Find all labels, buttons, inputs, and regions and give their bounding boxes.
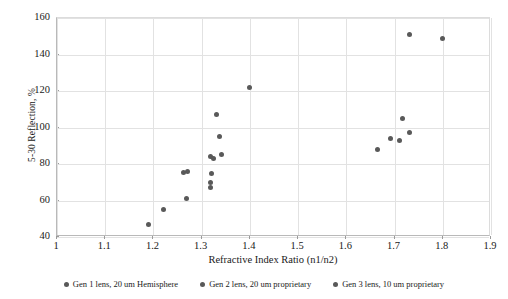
- legend-marker-icon: [333, 282, 338, 287]
- data-point: [400, 116, 405, 121]
- data-point: [440, 36, 445, 41]
- gridline-horizontal: [57, 164, 489, 165]
- legend-item[interactable]: Gen 3 lens, 10 um proprietary: [333, 279, 444, 289]
- gridline-horizontal: [57, 91, 489, 92]
- data-point: [184, 196, 189, 201]
- data-point: [407, 130, 412, 135]
- data-point: [211, 156, 216, 161]
- legend-item[interactable]: Gen 2 lens, 20 um proprietary: [200, 279, 311, 289]
- y-axis-tick-label: 100: [10, 122, 50, 132]
- x-axis-tick-mark: [201, 236, 202, 239]
- data-point: [146, 222, 151, 227]
- gridline-vertical: [298, 18, 299, 235]
- legend-label: Gen 3 lens, 10 um proprietary: [342, 279, 444, 289]
- x-axis-tick-mark: [345, 236, 346, 239]
- x-axis-tick-mark: [152, 236, 153, 239]
- data-point: [375, 147, 380, 152]
- gridline-vertical: [443, 18, 444, 235]
- y-axis-tick-label: 120: [10, 85, 50, 95]
- x-axis-tick-label: 1.9: [470, 240, 508, 251]
- data-point: [217, 134, 222, 139]
- gridline-vertical: [346, 18, 347, 235]
- data-point: [161, 207, 166, 212]
- legend-marker-icon: [200, 282, 205, 287]
- x-axis-tick-label: 1.8: [422, 240, 462, 251]
- gridline-horizontal: [57, 201, 489, 202]
- y-axis-tick-label: 80: [10, 158, 50, 168]
- data-point: [214, 112, 219, 117]
- legend-label: Gen 2 lens, 20 um proprietary: [209, 279, 311, 289]
- x-axis-tick-label: 1.2: [132, 240, 172, 251]
- gridline-horizontal: [57, 55, 489, 56]
- gridline-vertical: [57, 18, 58, 235]
- x-axis-tick-mark: [56, 236, 57, 239]
- data-point: [209, 171, 214, 176]
- legend-marker-icon: [64, 282, 69, 287]
- data-point: [208, 180, 213, 185]
- x-axis-tick-label: 1.6: [325, 240, 365, 251]
- data-point: [219, 152, 224, 157]
- gridline-horizontal: [57, 18, 489, 19]
- x-axis-tick-label: 1.1: [84, 240, 124, 251]
- x-axis-tick-label: 1.5: [277, 240, 317, 251]
- x-axis-tick-mark: [442, 236, 443, 239]
- y-axis-tick-label: 140: [10, 49, 50, 59]
- x-axis-tick-label: 1: [36, 240, 76, 251]
- data-point: [388, 136, 393, 141]
- gridline-vertical: [153, 18, 154, 235]
- plot-area: [56, 17, 490, 236]
- gridline-horizontal: [57, 128, 489, 129]
- x-axis-tick-label: 1.7: [374, 240, 414, 251]
- data-point: [247, 85, 252, 90]
- legend-label: Gen 1 lens, 20 um Hemisphere: [73, 279, 178, 289]
- x-axis-tick-mark: [104, 236, 105, 239]
- x-axis-tick-mark: [490, 236, 491, 239]
- gridline-vertical: [491, 18, 492, 235]
- data-point: [397, 138, 402, 143]
- x-axis-tick-label: 1.3: [181, 240, 221, 251]
- x-axis-tick-mark: [297, 236, 298, 239]
- data-point: [208, 185, 213, 190]
- data-point: [407, 32, 412, 37]
- data-point: [185, 169, 190, 174]
- gridline-vertical: [202, 18, 203, 235]
- y-axis-tick-labels: 406080100120140160: [6, 17, 50, 236]
- x-axis-tick-label: 1.4: [229, 240, 269, 251]
- legend-item[interactable]: Gen 1 lens, 20 um Hemisphere: [64, 279, 178, 289]
- x-axis-title: Refractive Index Ratio (n1/n2): [56, 254, 490, 265]
- chart-legend: Gen 1 lens, 20 um HemisphereGen 2 lens, …: [0, 279, 508, 289]
- gridline-vertical: [105, 18, 106, 235]
- gridline-vertical: [250, 18, 251, 235]
- x-axis-tick-mark: [249, 236, 250, 239]
- y-axis-tick-label: 60: [10, 195, 50, 205]
- gridline-vertical: [395, 18, 396, 235]
- scatter-chart: 5-30 Reflection, % 406080100120140160 11…: [0, 0, 508, 299]
- x-axis-tick-labels: 11.11.21.31.41.51.61.71.81.9: [56, 236, 490, 256]
- y-axis-tick-label: 160: [10, 12, 50, 22]
- x-axis-tick-mark: [394, 236, 395, 239]
